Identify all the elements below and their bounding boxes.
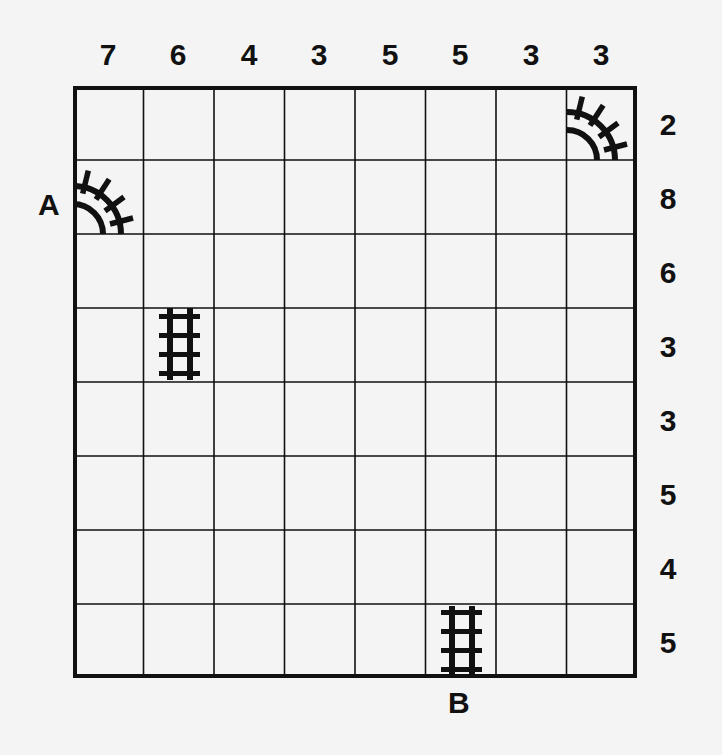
column-clue-2: 6 xyxy=(143,40,213,70)
row-clue-7: 4 xyxy=(648,554,688,584)
column-clue-1: 7 xyxy=(73,40,143,70)
row-clue-5: 3 xyxy=(648,406,688,436)
end-label-b: B xyxy=(448,688,470,718)
straight-track-icon xyxy=(426,604,496,678)
row-clue-3: 6 xyxy=(648,258,688,288)
grid-lines xyxy=(73,86,637,678)
row-clue-6: 5 xyxy=(648,480,688,510)
curve-track-icon xyxy=(567,86,637,160)
start-label-a: A xyxy=(38,190,60,220)
row-clue-1: 2 xyxy=(648,110,688,140)
row-clue-2: 8 xyxy=(648,184,688,214)
curve-track-icon xyxy=(73,160,143,234)
row-clue-4: 3 xyxy=(648,332,688,362)
puzzle-grid[interactable] xyxy=(73,86,637,678)
straight-track-icon xyxy=(144,308,214,382)
row-clue-8: 5 xyxy=(648,628,688,658)
column-clue-3: 4 xyxy=(214,40,284,70)
column-clue-6: 5 xyxy=(425,40,495,70)
column-clue-4: 3 xyxy=(284,40,354,70)
column-clue-8: 3 xyxy=(566,40,636,70)
column-clue-5: 5 xyxy=(355,40,425,70)
column-clue-7: 3 xyxy=(496,40,566,70)
